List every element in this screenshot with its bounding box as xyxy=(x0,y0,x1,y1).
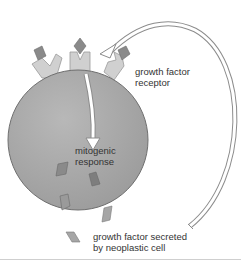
receptor-label-line-1: growth factor xyxy=(135,66,190,77)
receptor-label: growth factor receptor xyxy=(135,66,190,88)
diagram-svg xyxy=(0,0,241,263)
response-label: mitogenic response xyxy=(75,145,116,167)
autocrine-diagram: growth factor receptor mitogenic respons… xyxy=(0,0,241,263)
response-label-line-2: response xyxy=(75,156,116,167)
secreted-label: growth factor secreted by neoplastic cel… xyxy=(93,231,187,253)
secreted-label-line-2: by neoplastic cell xyxy=(93,242,187,253)
growth-factor xyxy=(34,46,46,60)
growth-factor xyxy=(56,162,68,176)
response-label-line-1: mitogenic xyxy=(75,145,116,156)
growth-factor xyxy=(66,232,80,242)
neoplastic-cell xyxy=(8,70,148,210)
receptor-label-line-2: receptor xyxy=(135,77,190,88)
growth-factor xyxy=(102,206,112,222)
receptor-center xyxy=(70,52,90,72)
bottom-divider xyxy=(0,259,241,260)
secreted-label-line-1: growth factor secreted xyxy=(93,231,187,242)
